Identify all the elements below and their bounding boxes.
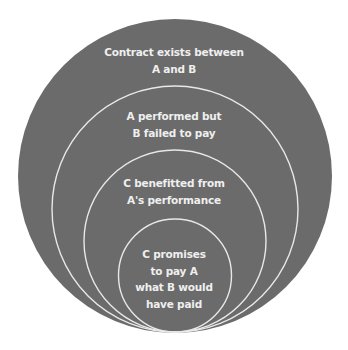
label-line: A performed but — [0, 108, 348, 125]
label-c-promises: C promises to pay A what B would have pa… — [0, 246, 348, 312]
nested-circles-diagram: Contract exists between A and B A perfor… — [0, 0, 348, 350]
label-line: what B would — [0, 279, 348, 296]
label-line: C benefitted from — [0, 175, 348, 192]
label-line: A's performance — [0, 192, 348, 209]
label-line: C promises — [0, 246, 348, 263]
label-line: to pay A — [0, 263, 348, 280]
label-line: B failed to pay — [0, 125, 348, 142]
label-c-benefitted: C benefitted from A's performance — [0, 175, 348, 208]
label-line: A and B — [0, 61, 348, 78]
label-line: Contract exists between — [0, 44, 348, 61]
label-contract-exists: Contract exists between A and B — [0, 44, 348, 77]
label-a-performed: A performed but B failed to pay — [0, 108, 348, 141]
label-line: have paid — [0, 296, 348, 313]
